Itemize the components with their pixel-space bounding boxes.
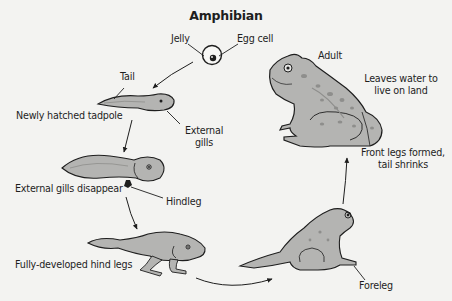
label-jelly: Jelly [171, 33, 190, 44]
label-external-gills-2: gills [179, 137, 229, 148]
froglet-icon [240, 209, 356, 270]
hindleg-leader-line [131, 187, 163, 198]
egg-icon [203, 46, 222, 65]
jelly-leader-line [188, 44, 204, 56]
label-egg-cell: Egg cell [237, 33, 273, 44]
label-front-legs-formed-1: Front legs formed, [357, 147, 449, 158]
adult-frog-icon [270, 54, 382, 147]
label-external-gills-1: External [179, 125, 229, 136]
label-newly-hatched-tadpole: Newly hatched tadpole [16, 110, 123, 121]
newly-hatched-tadpole-icon [98, 94, 174, 111]
egg-cell-leader-line [219, 44, 238, 56]
arrow-gills-to-hindlegs [126, 197, 137, 229]
label-foreleg: Foreleg [359, 280, 393, 291]
foreleg-leader-line [354, 266, 365, 280]
label-adult: Adult [318, 50, 342, 61]
label-external-gills-disappear: External gills disappear [15, 183, 123, 194]
label-leaves-water-2: live on land [356, 85, 446, 96]
amphibian-life-cycle-diagram: Amphibian [0, 0, 452, 301]
arrow-egg-to-tadpole [153, 62, 193, 88]
external-gills-leader-line [167, 111, 180, 124]
label-fully-developed-hind-legs: Fully-developed hind legs [15, 259, 132, 270]
arrow-hindlegs-to-froglet [196, 278, 272, 285]
label-tail: Tail [120, 71, 135, 82]
arrow-tadpole-to-gills [124, 120, 132, 152]
label-front-legs-formed-2: tail shrinks [357, 159, 449, 170]
label-leaves-water-1: Leaves water to [356, 73, 446, 84]
arrow-froglet-to-adult [343, 158, 347, 204]
label-hindleg: Hindleg [166, 196, 201, 207]
